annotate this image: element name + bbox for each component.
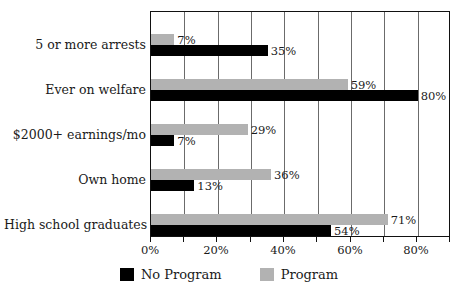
bar-value-noprogram-1: 80%	[418, 89, 447, 103]
bar-row-noprogram-1: 80%	[151, 90, 449, 101]
xtick-50	[316, 237, 317, 242]
bar-row-noprogram-4: 54%	[151, 225, 449, 236]
bar-value-noprogram-2: 7%	[174, 134, 195, 148]
category-label-0: 5 or more arrests	[4, 37, 146, 52]
gray-square-swatch-icon	[260, 268, 274, 281]
legend-item-no-program[interactable]: No Program	[120, 267, 222, 282]
bar-group-3: 36% 13%	[151, 168, 449, 192]
xtick-70	[383, 237, 384, 242]
xtick-label-40: 40%	[270, 243, 296, 257]
plot-area: 7% 35% 59% 80% 29% 7%	[150, 11, 450, 237]
bar-value-noprogram-0: 35%	[268, 44, 297, 58]
legend-label-no-program: No Program	[141, 267, 222, 282]
category-label-2: $2000+ earnings/mo	[4, 127, 146, 142]
bar-group-4: 71% 54%	[151, 213, 449, 237]
bar-row-noprogram-2: 7%	[151, 135, 449, 146]
xtick-0	[150, 237, 151, 242]
legend-item-program[interactable]: Program	[260, 267, 338, 282]
bar-program-2	[151, 124, 248, 135]
xtick-label-0: 0%	[141, 243, 159, 257]
category-label-1: Ever on welfare	[4, 82, 146, 97]
xtick-30	[250, 237, 251, 242]
bar-group-2: 29% 7%	[151, 123, 449, 147]
bar-row-program-0: 7%	[151, 34, 449, 45]
xtick-40	[283, 237, 284, 242]
xtick-20	[216, 237, 217, 242]
bar-value-noprogram-3: 13%	[194, 179, 223, 193]
xtick-label-20: 20%	[203, 243, 229, 257]
bar-row-program-4: 71%	[151, 214, 449, 225]
category-label-3: Own home	[4, 172, 146, 187]
xtick-90	[449, 237, 450, 242]
bar-chart: 7% 35% 59% 80% 29% 7%	[0, 0, 458, 295]
chart-legend: No Program Program	[0, 267, 458, 282]
bar-noprogram-2	[151, 135, 174, 146]
bar-row-program-2: 29%	[151, 124, 449, 135]
bar-program-0	[151, 34, 174, 45]
bar-row-noprogram-0: 35%	[151, 45, 449, 56]
legend-label-program: Program	[281, 267, 338, 282]
bar-noprogram-0	[151, 45, 268, 56]
bar-row-program-1: 59%	[151, 79, 449, 90]
xtick-label-60: 60%	[337, 243, 363, 257]
bar-program-1	[151, 79, 348, 90]
xtick-80	[416, 237, 417, 242]
bar-noprogram-3	[151, 180, 194, 191]
xtick-label-80: 80%	[403, 243, 429, 257]
xtick-10	[183, 237, 184, 242]
bar-group-0: 7% 35%	[151, 33, 449, 57]
bar-group-1: 59% 80%	[151, 78, 449, 102]
bar-row-noprogram-3: 13%	[151, 180, 449, 191]
xtick-60	[350, 237, 351, 242]
category-label-4: High school graduates	[4, 217, 146, 232]
bar-noprogram-1	[151, 90, 418, 101]
black-square-swatch-icon	[120, 268, 134, 281]
bar-noprogram-4	[151, 225, 331, 236]
bar-value-noprogram-4: 54%	[331, 224, 360, 238]
